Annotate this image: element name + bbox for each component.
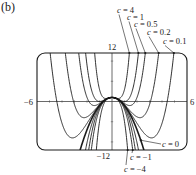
arrowhead-icon	[137, 52, 139, 54]
curve-label: c = 0	[162, 139, 179, 149]
annotation-leader	[126, 150, 128, 165]
y-max-label: 12	[108, 42, 117, 52]
axes	[37, 53, 187, 150]
arrowhead-icon	[173, 52, 175, 54]
arrowhead-icon	[140, 139, 142, 141]
chart: −6 6 12 −12 c = 4c = 1c = 0.5c = 0.2c = …	[0, 0, 196, 175]
arrowhead-icon	[132, 149, 134, 151]
arrowhead-icon	[128, 52, 130, 54]
arrowhead-icon	[158, 52, 160, 54]
x-max-label: 6	[190, 97, 194, 107]
annotation-leader	[149, 37, 159, 54]
annotation-leader	[165, 46, 174, 54]
y-min-label: −12	[97, 151, 110, 161]
curve-label: c = 0.1	[163, 36, 186, 46]
arrowhead-icon	[127, 149, 129, 151]
curve-label: c = −4	[124, 164, 147, 174]
arrowhead-icon	[144, 52, 146, 54]
annotation-leader	[141, 140, 161, 144]
curve-label: c = −1	[130, 152, 152, 162]
x-min-label: −6	[24, 97, 33, 107]
